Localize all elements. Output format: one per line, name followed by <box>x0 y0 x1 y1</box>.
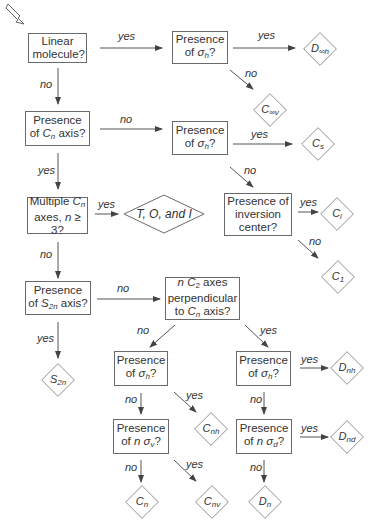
sigma-h-question-right: Presenceof σh? <box>236 351 291 386</box>
edge-label-no: no <box>40 78 52 90</box>
result-dnd: Dnd <box>330 420 364 454</box>
result-cn: Cn <box>125 485 159 519</box>
edge-label-no: no <box>250 461 262 473</box>
sigma-h-question-left: Presenceof σh? <box>114 351 168 386</box>
edge-label-no: no <box>137 324 149 336</box>
edge-label-no: no <box>250 393 262 405</box>
cn-axis-question: Presenceof Cn axis? <box>25 111 90 146</box>
edge-label-no: no <box>309 235 321 247</box>
result-d-inf-h: D∞h <box>303 32 337 66</box>
edge-label-no: no <box>245 67 257 79</box>
result-s2n: S2n <box>41 363 75 397</box>
result-text: T, O, and I <box>124 195 204 233</box>
question-text: n C2 axesperpendicularto Cn axis? <box>168 276 238 321</box>
result-ci: Ci <box>320 197 354 231</box>
result-cnh: Cnh <box>194 412 228 446</box>
sigma-h-question-linear: Presenceof σh? <box>172 31 228 64</box>
edge-label-no: no <box>125 393 137 405</box>
result-c1: C1 <box>321 260 355 294</box>
result-c-inf-v: C∞v <box>253 93 287 127</box>
question-text: Multiple Cnaxes, n ≥ 3? <box>28 195 87 237</box>
nc2-perpendicular-question: n C2 axesperpendicularto Cn axis? <box>165 277 240 320</box>
edge-label-yes: yes <box>301 353 318 365</box>
edge-label-no: no <box>120 113 132 125</box>
n-sigma-d-question: Presenceof n σd? <box>236 419 292 454</box>
question-text: Presenceof σh? <box>239 354 288 383</box>
question-text: Presence ofinversioncenter? <box>227 195 288 234</box>
result-t-o-i: T, O, and I <box>124 195 204 233</box>
edge-label-no: no <box>117 282 129 294</box>
result-cs: Cs <box>301 127 335 161</box>
edge-label-no: no <box>125 461 137 473</box>
edge-label-yes: yes <box>258 29 275 41</box>
edge-label-yes: yes <box>186 389 203 401</box>
sigma-h-question-no-cn: Presenceof σh? <box>172 121 228 155</box>
question-text: Presenceof n σv? <box>117 422 166 451</box>
edge-label-yes: yes <box>260 324 277 336</box>
edge-label-yes: yes <box>186 458 203 470</box>
n-sigma-v-question: Presenceof n σv? <box>113 419 169 454</box>
edge-label-no: no <box>244 164 256 176</box>
inversion-center-question: Presence ofinversioncenter? <box>224 193 292 236</box>
edge-label-yes: yes <box>98 198 115 210</box>
question-text: Linear molecule? <box>33 35 83 61</box>
question-text: Presenceof S2n axis? <box>28 284 87 313</box>
multiple-cn-question: Multiple Cnaxes, n ≥ 3? <box>27 197 88 234</box>
question-text: Presenceof σh? <box>176 33 225 62</box>
edge-label-yes: yes <box>301 422 318 434</box>
s2n-axis-question: Presenceof S2n axis? <box>25 281 91 315</box>
edge-label-no: no <box>40 248 52 260</box>
result-dn: Dn <box>248 485 282 519</box>
linear-molecule-question: Linear molecule? <box>28 33 87 63</box>
question-text: Presenceof Cn axis? <box>30 114 86 143</box>
question-text: Presenceof n σd? <box>240 422 289 451</box>
edge-label-yes: yes <box>251 128 268 140</box>
edge-label-yes: yes <box>38 164 55 176</box>
result-dnh: Dnh <box>330 351 364 385</box>
question-text: Presenceof σh? <box>176 124 225 153</box>
edge-label-yes: yes <box>37 332 54 344</box>
result-cnv: Cnv <box>195 485 229 519</box>
edge-label-yes: yes <box>300 196 317 208</box>
question-text: Presenceof σh? <box>117 354 166 383</box>
edge-label-yes: yes <box>118 30 135 42</box>
connector-layer <box>0 0 368 530</box>
start-arrow-icon <box>6 4 24 24</box>
